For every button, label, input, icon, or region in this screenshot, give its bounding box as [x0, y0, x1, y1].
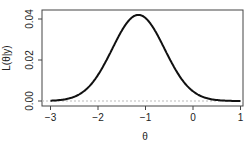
plot-frame: [42, 10, 243, 106]
x-tick-label: −2: [92, 112, 104, 123]
x-axis-label: θ: [142, 131, 148, 142]
likelihood-chart: −3−2−101 0.000.020.04 θ L(θ|y): [0, 0, 251, 146]
x-tick-label: 0: [190, 112, 196, 123]
y-tick-label: 0.04: [24, 9, 35, 29]
y-tick-label: 0.00: [24, 91, 35, 111]
x-tick-label: −1: [140, 112, 152, 123]
y-tick-label: 0.02: [24, 50, 35, 70]
likelihood-curve: [51, 15, 241, 101]
y-axis: 0.000.020.04: [24, 9, 42, 111]
y-axis-label: L(θ|y): [1, 45, 12, 70]
x-axis: −3−2−101: [45, 106, 244, 123]
x-tick-label: −3: [45, 112, 57, 123]
x-tick-label: 1: [238, 112, 244, 123]
